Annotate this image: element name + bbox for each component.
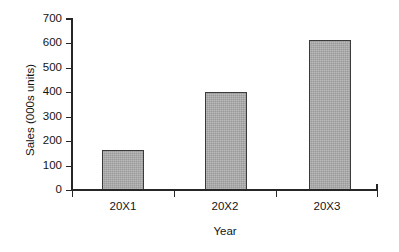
x-tick-mark-0	[72, 190, 73, 197]
y-tick-label-700: 700	[22, 13, 62, 25]
y-tick-label-700-wrap: 700	[22, 13, 62, 25]
x-axis-title: Year	[72, 225, 378, 237]
bar-20X1	[102, 150, 144, 190]
x-tick-label-20X3: 20X3	[276, 200, 378, 212]
x-tick-label-20X1: 20X1	[72, 200, 174, 212]
y-axis-top-cap	[66, 18, 73, 20]
y-tick-label-300: 300	[22, 111, 62, 123]
y-tick-label-500: 500	[22, 62, 62, 74]
y-tick-label-600-wrap: 600	[22, 37, 62, 49]
y-tick-label-0: 0	[22, 184, 62, 196]
bar-20X3	[309, 40, 351, 190]
y-tick-label-400: 400	[22, 86, 62, 98]
y-tick-label-400-wrap: 400	[22, 86, 62, 98]
y-tick-label-100-wrap: 100	[22, 160, 62, 172]
y-tick-label-300-wrap: 300	[22, 111, 62, 123]
x-tick-mark-1	[174, 190, 175, 197]
y-tick-label-200-wrap: 200	[22, 135, 62, 147]
y-axis-line	[71, 18, 73, 191]
bar-chart: Sales (000s units) 700 600 500 400 300 2…	[0, 0, 399, 252]
x-axis-line	[71, 189, 378, 191]
bar-20X2	[205, 92, 247, 190]
y-tick-label-500-wrap: 500	[22, 62, 62, 74]
plot-area	[72, 19, 378, 190]
x-tick-label-20X2: 20X2	[174, 200, 276, 212]
x-tick-mark-2	[276, 190, 277, 197]
y-tick-label-600: 600	[22, 37, 62, 49]
y-tick-label-100: 100	[22, 160, 62, 172]
y-tick-label-0-wrap: 0	[22, 184, 62, 196]
y-tick-label-200: 200	[22, 135, 62, 147]
x-tick-mark-3	[377, 190, 378, 197]
